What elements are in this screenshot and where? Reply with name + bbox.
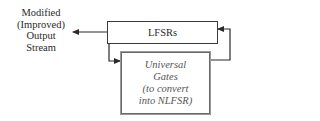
lfsr-to-gates-arrow (109, 43, 120, 61)
gates-line-3: (to convert (143, 83, 189, 95)
gates-line-1: Universal (145, 59, 186, 71)
lfsr-label: LFSRs (148, 27, 177, 38)
universal-gates-box: Universal Gates (to convert into NLFSR) (121, 52, 210, 114)
gates-line-2: Gates (153, 71, 178, 83)
lfsr-box: LFSRs (107, 21, 218, 44)
gates-line-4: into NLFSR) (139, 95, 192, 107)
